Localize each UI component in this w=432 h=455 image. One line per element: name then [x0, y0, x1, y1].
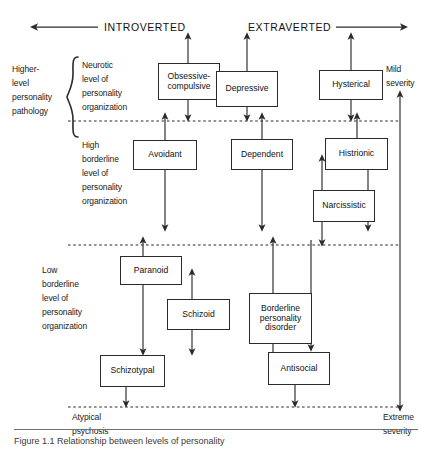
box-obsessive-compulsive-line2: compulsive: [168, 81, 211, 91]
box-dependent[interactable]: Dependent: [231, 139, 293, 170]
box-narcissistic[interactable]: Narcissistic: [313, 190, 375, 222]
level-low-borderline-line2: borderline: [42, 279, 79, 290]
higher-level-brace-icon: [66, 56, 80, 138]
box-borderline-line2: personality: [260, 313, 302, 323]
left-bracket-label-line4: pathology: [12, 106, 74, 117]
level-high-borderline-line1: High: [82, 140, 99, 151]
left-bracket-label-line2: level: [12, 78, 70, 89]
box-schizoid-label: Schizoid: [182, 310, 214, 320]
box-avoidant[interactable]: Avoidant: [133, 140, 197, 170]
level-high-borderline-line2: borderline: [82, 154, 119, 165]
box-schizotypal-label: Schizotypal: [111, 366, 155, 376]
box-narcissistic-label: Narcissistic: [322, 201, 365, 211]
level-low-borderline-line3: level of: [42, 293, 68, 304]
box-paranoid[interactable]: Paranoid: [120, 256, 182, 285]
box-paranoid-label: Paranoid: [134, 266, 168, 276]
atypical-psychosis-line2: psychosis: [72, 426, 108, 437]
box-borderline-personality-disorder[interactable]: Borderline personality disorder: [249, 293, 312, 344]
severity-extreme-line2: severity: [383, 426, 412, 437]
box-depressive-label: Depressive: [226, 84, 269, 94]
level-neurotic-line1: Neurotic: [82, 60, 113, 71]
severity-mild-line2: severity: [386, 78, 415, 89]
box-dependent-label: Dependent: [241, 150, 283, 160]
box-depressive[interactable]: Depressive: [216, 71, 278, 107]
box-avoidant-label: Avoidant: [148, 150, 181, 160]
left-bracket-label-line1: Higher-: [12, 64, 70, 75]
box-schizoid[interactable]: Schizoid: [167, 299, 230, 330]
level-high-borderline-line3: level of: [82, 168, 108, 179]
box-hysterical-label: Hysterical: [332, 80, 370, 90]
box-histrionic[interactable]: Histrionic: [325, 138, 388, 170]
axis-label-extraverted: EXTRAVERTED: [248, 21, 331, 33]
severity-mild-line1: Mild: [386, 64, 401, 75]
caption-divider: [14, 429, 418, 430]
level-high-borderline-line5: organization: [82, 196, 127, 207]
box-antisocial[interactable]: Antisocial: [268, 352, 330, 385]
atypical-psychosis-line1: Atypical: [72, 412, 101, 423]
figure-canvas: INTROVERTED EXTRAVERTED Higher- level pe…: [0, 0, 432, 455]
level-low-borderline-line4: personality: [42, 307, 82, 318]
box-obsessive-compulsive-line1: Obsessive-: [168, 71, 211, 81]
left-bracket-label-line3: personality: [12, 92, 74, 103]
severity-extreme-line1: Extreme: [383, 412, 414, 423]
box-borderline-line1: Borderline: [261, 303, 300, 313]
box-obsessive-compulsive[interactable]: Obsessive- compulsive: [158, 63, 220, 100]
level-neurotic-line4: organization: [82, 102, 127, 113]
level-neurotic-line3: personality: [82, 88, 122, 99]
level-high-borderline-line4: personality: [82, 182, 122, 193]
box-antisocial-label: Antisocial: [281, 364, 318, 374]
level-neurotic-line2: level of: [82, 74, 108, 85]
axis-label-introverted: INTROVERTED: [104, 21, 186, 33]
box-borderline-line3: disorder: [265, 322, 296, 332]
figure-caption: Figure 1.1 Relationship between levels o…: [14, 436, 424, 446]
box-hysterical[interactable]: Hysterical: [319, 70, 383, 100]
level-low-borderline-line5: organization: [42, 321, 87, 332]
box-schizotypal[interactable]: Schizotypal: [100, 355, 165, 387]
box-histrionic-label: Histrionic: [339, 149, 374, 159]
level-low-borderline-line1: Low: [42, 265, 57, 276]
